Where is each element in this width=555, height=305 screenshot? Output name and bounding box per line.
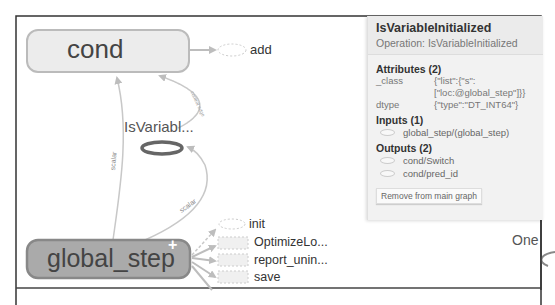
optimize-label: OptimizeLo... [254, 235, 328, 249]
output-label: cond/Switch [403, 154, 454, 167]
is-variable-label: IsVariabl... [124, 118, 194, 135]
inputs-title: Inputs (1) [376, 114, 535, 126]
report-label: report_unin... [254, 253, 328, 267]
node-is-variable-initialized[interactable] [142, 142, 182, 154]
attribute-value: {"type":"DT_INT64"} [434, 99, 535, 111]
input-item[interactable]: global_step/(global_step) [376, 126, 535, 139]
global-step-label: global_step [47, 244, 175, 273]
one-label: One [512, 232, 538, 248]
attribute-key: _class [376, 75, 434, 99]
output-label: cond/pred_id [403, 167, 458, 180]
attributes-title: Attributes (2) [376, 63, 535, 75]
op-node-icon [380, 157, 395, 164]
save-label: save [254, 270, 280, 284]
add-label: add [250, 42, 272, 57]
output-item[interactable]: cond/pred_id [376, 167, 535, 180]
cond-label: cond [67, 34, 123, 65]
expand-plus-icon[interactable]: + [168, 236, 177, 254]
attribute-row: dtype {"type":"DT_INT64"} [376, 99, 535, 111]
remove-from-main-graph-button[interactable]: Remove from main graph [376, 188, 482, 204]
op-node-icon [380, 129, 395, 136]
attribute-key: dtype [376, 99, 434, 111]
output-item[interactable]: cond/Switch [376, 154, 535, 167]
attribute-value: {"list":{"s": ["loc:@global_step"]}} [434, 75, 535, 99]
init-label: init [249, 217, 265, 231]
panel-title: IsVariableInitialized [376, 21, 535, 35]
outputs-title: Outputs (2) [376, 142, 535, 154]
op-node-icon [380, 170, 395, 177]
panel-operation: Operation: IsVariableInitialized [376, 37, 535, 49]
attribute-row: _class {"list":{"s": ["loc:@global_step"… [376, 75, 535, 99]
input-label: global_step/(global_step) [403, 126, 509, 139]
node-info-panel: IsVariableInitialized Operation: IsVaria… [367, 16, 543, 220]
